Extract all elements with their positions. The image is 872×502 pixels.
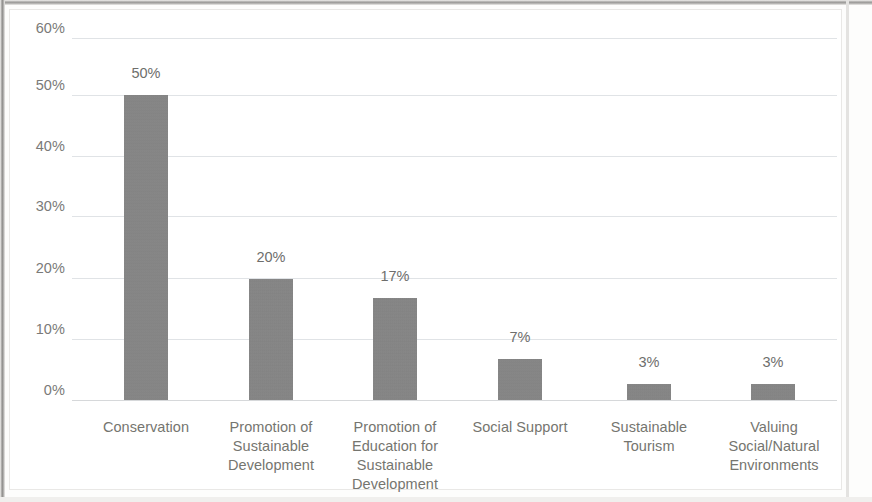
gridline-10 [72,339,837,340]
scan-edge-left [0,0,5,502]
data-label-sustainable-tourism: 3% [619,355,679,370]
x-axis-label-promotion-of-education-for-sustainable-development: Promotion of Education for Sustainable D… [329,418,461,493]
chart-frame: 60% 50% 40% 30% 20% 10% 0% [9,9,842,490]
x-axis-label-promotion-of-sustainable-development: Promotion of Sustainable Development [205,418,337,475]
data-label-promotion-of-sustainable-development: 20% [241,250,301,265]
bar-sustainable-tourism[interactable] [627,384,671,400]
y-axis-tick: 0% [17,383,65,398]
x-axis-label-sustainable-tourism: Sustainable Tourism [585,418,713,456]
gridline-50 [72,95,837,96]
bar-valuing-social-natural-environments[interactable] [751,384,795,400]
x-axis-label-line: Conservation [82,418,210,437]
y-axis-tick: 50% [17,78,65,93]
data-label-conservation: 50% [116,66,176,81]
x-axis-label-line: Sustainable [585,418,713,437]
gridline-40 [72,156,837,157]
y-axis-tick: 40% [17,139,65,154]
x-axis-label-line: Development [205,456,337,475]
gridline-30 [72,216,837,217]
scan-edge-bottom [0,497,872,502]
plot-area: 50% 20% 17% 7% 3% 3% Conservation Promot… [72,38,837,400]
y-axis-tick: 10% [17,322,65,337]
x-axis-label-line: Tourism [585,437,713,456]
x-axis-label-social-support: Social Support [456,418,584,437]
x-axis-label-line: Sustainable [205,437,337,456]
gridline-60 [72,38,837,39]
scan-edge-top [0,0,872,5]
bar-conservation[interactable] [124,95,168,400]
x-axis-label-line: Promotion of [329,418,461,437]
bar-social-support[interactable] [498,359,542,400]
bar-promotion-of-education-for-sustainable-development[interactable] [373,298,417,400]
x-axis-label-line: Environments [706,456,842,475]
scan-edge-right [846,0,849,502]
y-axis-tick: 60% [17,21,65,36]
x-axis-label-line: Development [329,475,461,494]
x-axis-label-line: Education for [329,437,461,456]
bar-promotion-of-sustainable-development[interactable] [249,279,293,400]
x-axis-label-line: Social/Natural [706,437,842,456]
x-axis-label-line: Social Support [456,418,584,437]
x-axis-label-valuing-social-natural-environments: Valuing Social/Natural Environments [706,418,842,475]
gridline-20 [72,278,837,279]
y-axis-tick: 30% [17,199,65,214]
data-label-promotion-of-education-for-sustainable-development: 17% [365,269,425,284]
x-axis-label-conservation: Conservation [82,418,210,437]
y-axis-tick-labels: 60% 50% 40% 30% 20% 10% 0% [10,10,65,502]
x-axis-label-line: Promotion of [205,418,337,437]
y-axis-tick: 20% [17,261,65,276]
scanned-page: 60% 50% 40% 30% 20% 10% 0% [0,0,872,502]
x-axis-label-line: Valuing [706,418,842,437]
x-axis-line [72,400,837,401]
data-label-social-support: 7% [490,330,550,345]
data-label-valuing-social-natural-environments: 3% [743,355,803,370]
x-axis-label-line: Sustainable [329,456,461,475]
